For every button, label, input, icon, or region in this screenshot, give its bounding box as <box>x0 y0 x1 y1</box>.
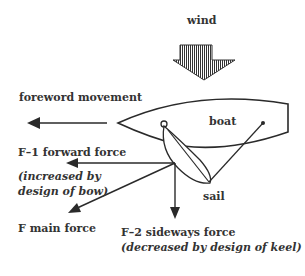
force-f2-arrow-icon <box>170 163 180 219</box>
f1-label: F–1 forward force <box>18 146 126 159</box>
sail <box>163 123 263 183</box>
f-main-label: F main force <box>18 222 96 235</box>
boat-label: boat <box>209 115 236 128</box>
f2-label: F–2 sideways force <box>121 226 235 239</box>
f2-note: (decreased by design of keel) <box>121 241 302 254</box>
sailing-forces-diagram: wind foreword movement boat sail F–1 for… <box>0 0 305 276</box>
f1-note-line1: (increased by <box>18 170 101 183</box>
forward-movement-label: foreword movement <box>19 91 142 104</box>
wind-label: wind <box>187 14 216 27</box>
wind-arrow-icon <box>173 45 235 80</box>
f1-note-line2: design of bow) <box>18 185 108 198</box>
force-f1-arrow-icon <box>66 158 175 168</box>
sail-label: sail <box>203 190 225 203</box>
forward-movement-arrow-icon <box>27 117 107 129</box>
